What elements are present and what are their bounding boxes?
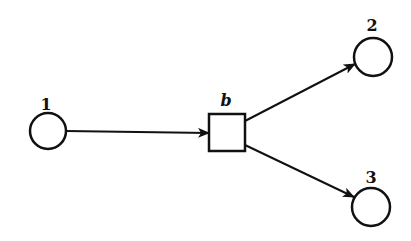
arc-1-to-b — [66, 131, 209, 133]
arc-b-to-2 — [245, 64, 355, 121]
transition-label-b: b — [220, 91, 231, 110]
transition-node-b — [209, 114, 245, 151]
diagram-canvas: 123 b — [0, 0, 411, 241]
transitions: b — [209, 91, 245, 151]
place-label-3: 3 — [365, 168, 376, 187]
place-label-1: 1 — [40, 95, 51, 114]
arc-b-to-3 — [245, 145, 354, 197]
place-node-2 — [354, 38, 392, 76]
place-node-1 — [30, 113, 66, 149]
place-label-2: 2 — [366, 16, 377, 35]
place-node-3 — [352, 188, 390, 226]
